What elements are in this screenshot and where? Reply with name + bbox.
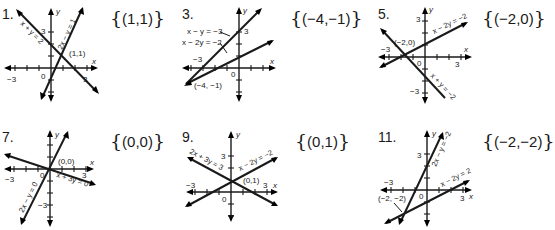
x-axis-label: x (91, 57, 97, 66)
brace-open: { (110, 130, 122, 152)
brace-close: } (542, 130, 554, 152)
origin-label: 0 (231, 70, 236, 79)
tick-label: −3 (186, 181, 196, 190)
answer-value: (−4,−1) (302, 10, 350, 27)
intersection-label: (1,1) (69, 49, 86, 58)
problem-11: 11. 3 −3 3 0 x y (−2, −2) 2x − y = −2 x … (360, 115, 541, 230)
equation-label: x − y = −3 (187, 27, 223, 36)
answer-set: {(−2,−2)} (482, 129, 555, 151)
intersection-label: (0,0) (58, 157, 75, 166)
y-axis-label: y (428, 5, 434, 14)
x-axis-label: x (269, 57, 275, 66)
answer-value: (−2,0) (494, 10, 534, 27)
tick-label: −3 (410, 87, 420, 96)
y-axis-label: y (235, 130, 241, 139)
equation-label: 2x − y = 1 (56, 17, 78, 51)
origin-label: 0 (417, 59, 422, 68)
brace-open: { (482, 130, 494, 152)
tick-label: 3 (460, 194, 465, 203)
intersection-label: (−2,0) (394, 38, 415, 47)
answer-value: (−2,−2) (494, 133, 542, 150)
origin-label: 0 (419, 192, 424, 201)
equation-label: x − 2y = −2 (182, 38, 222, 47)
answer-value: (1,1) (122, 10, 153, 27)
brace-close: } (534, 7, 546, 29)
problem-5: 5. 3 −3 −3 3 0 x y (−2,0) x − 2y = −2 x … (360, 0, 541, 115)
tick-label: 3 (416, 15, 421, 24)
brace-open: { (482, 7, 494, 29)
answer-set: {(0,0)} (110, 129, 165, 151)
line-2x-minus-y-eq-neg2 (400, 134, 442, 223)
tick-label: 3 (417, 151, 422, 160)
brace-open: { (295, 130, 307, 152)
origin-label: 0 (222, 195, 227, 204)
origin-label: 0 (40, 171, 45, 180)
y-axis-label: y (242, 6, 248, 15)
problem-1: 1. −3 3 3 0 x y (1,1) x + y = 2 2x − y =… (0, 0, 181, 115)
tick-label: −3 (7, 75, 17, 84)
brace-open: { (290, 7, 302, 29)
y-axis-label: y (55, 7, 61, 16)
brace-close: } (153, 130, 165, 152)
tick-label: −3 (384, 178, 394, 187)
tick-label: 3 (221, 152, 226, 161)
problem-3: 3. x − y = −3 x − 2y = −2 −3 3 0 x y (−4… (180, 0, 361, 115)
origin-label: 0 (41, 72, 46, 81)
problem-7: 7. −3 3 −3 0 x y (0,0) x + 3y = 0 2x − y… (0, 115, 181, 230)
tick-label: −3 (38, 201, 48, 210)
tick-label: −3 (381, 45, 391, 54)
brace-close: } (338, 130, 350, 152)
y-axis-label: y (54, 130, 60, 139)
x-axis-label: x (468, 192, 474, 201)
answer-value: (0,0) (122, 133, 153, 150)
tick-label: 3 (455, 60, 460, 69)
x-axis-label: x (272, 181, 278, 190)
tick-label: −3 (5, 175, 15, 184)
answer-set: {(1,1)} (110, 6, 165, 28)
y-axis-label: y (431, 129, 437, 138)
answer-set: {(−2,0)} (482, 6, 546, 28)
tick-label: 3 (263, 181, 268, 190)
x-axis-label: x (463, 45, 469, 54)
intersection-label: (−2, −2) (378, 194, 406, 203)
tick-label: −3 (193, 55, 203, 64)
equation-label: x − 2y = 2 (439, 166, 472, 189)
intersection-label: (−4, −1) (194, 81, 222, 90)
answer-set: {(−4,−1)} (290, 6, 363, 28)
answer-set: {(0,1)} (295, 129, 350, 151)
answer-value: (0,1) (307, 133, 338, 150)
tick-label: 3 (244, 27, 249, 36)
x-axis-label: x (89, 158, 95, 167)
intersection-label: (0,1) (243, 176, 260, 185)
tick-label: 3 (83, 75, 88, 84)
brace-close: } (153, 7, 165, 29)
problem-9: 9. 3 −3 3 0 x y (0,1) 2x + 3y = 3 x − 2y… (180, 115, 361, 230)
brace-open: { (110, 7, 122, 29)
